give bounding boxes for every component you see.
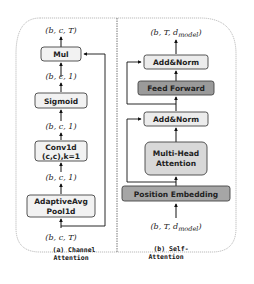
add-norm-block-2[interactable]: Add&Norm: [144, 55, 208, 69]
sa-caption-line2: Attention: [148, 253, 183, 261]
svg-text:Multi-Head: Multi-Head: [153, 149, 199, 158]
ca-shape-2: (b, c, 1): [45, 122, 76, 131]
svg-text:Mul: Mul: [53, 50, 68, 59]
sa-input-shape: (b, T, dmodel): [151, 222, 202, 233]
sa-caption-line1: (b) Self-: [153, 245, 188, 253]
svg-text:Add&Norm: Add&Norm: [153, 58, 199, 67]
ca-shape-3: (b, c, 1): [45, 72, 76, 81]
ca-caption-line1: (a) Channel: [52, 246, 95, 254]
mul-block[interactable]: Mul: [41, 47, 81, 61]
sigmoid-block[interactable]: Sigmoid: [35, 93, 87, 108]
self-attention-panel: (b, T, dmodel) Add&Norm Feed Forward Add…: [122, 28, 230, 261]
svg-text:Feed Forward: Feed Forward: [147, 84, 205, 93]
adaptive-avg-pool-block[interactable]: AdaptiveAvg Pool1d: [27, 195, 95, 217]
ca-output-shape: (b, c, T): [45, 26, 76, 35]
add-norm-block-1[interactable]: Add&Norm: [144, 112, 208, 126]
svg-text:(c,c),k=1: (c,c),k=1: [42, 152, 80, 161]
conv1d-block[interactable]: Conv1d (c,c),k=1: [35, 141, 87, 161]
architecture-diagram: (b, c, T) Mul (b, c, 1) Sigmoid (b, c, 1…: [0, 0, 254, 284]
channel-attention-panel: (b, c, T) Mul (b, c, 1) Sigmoid (b, c, 1…: [27, 26, 105, 262]
position-embedding-block[interactable]: Position Embedding: [122, 186, 230, 201]
svg-text:Pool1d: Pool1d: [47, 207, 76, 216]
svg-text:Conv1d: Conv1d: [45, 143, 76, 152]
ca-caption-line2: Attention: [53, 254, 88, 262]
feed-forward-block[interactable]: Feed Forward: [138, 81, 214, 95]
svg-text:AdaptiveAvg: AdaptiveAvg: [34, 197, 88, 206]
svg-text:Add&Norm: Add&Norm: [153, 115, 199, 124]
svg-text:Position Embedding: Position Embedding: [134, 190, 218, 199]
ca-input-shape: (b, c, T): [45, 233, 76, 242]
svg-text:Sigmoid: Sigmoid: [44, 97, 78, 106]
ca-shape-1: (b, c, 1): [45, 173, 76, 182]
sa-output-shape: (b, T, dmodel): [151, 28, 202, 39]
svg-text:Attention: Attention: [156, 159, 196, 168]
multi-head-attention-block[interactable]: Multi-Head Attention: [145, 142, 207, 175]
